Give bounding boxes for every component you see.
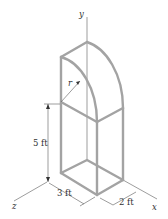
base-back-edges [61, 160, 123, 180]
arc-base-edges [61, 102, 123, 122]
depth-dimension-line [100, 198, 113, 205]
frame-diagram: y z x r 5 ft 3 ft 2 ft [0, 0, 168, 219]
x-axis-label: x [152, 202, 157, 212]
height-label: 5 ft [33, 138, 48, 148]
y-axis-label: y [78, 9, 84, 19]
back-arc [87, 42, 123, 108]
radius-label: r [68, 78, 73, 88]
z-axis [14, 182, 47, 201]
z-axis-label: z [11, 201, 17, 211]
top-ridge [61, 42, 87, 57]
width-label: 3 ft [57, 188, 72, 198]
height-arrow-bottom [46, 177, 50, 182]
depth-label: 2 ft [119, 197, 134, 207]
width-ext [80, 197, 95, 206]
height-arrow-top [46, 104, 50, 109]
